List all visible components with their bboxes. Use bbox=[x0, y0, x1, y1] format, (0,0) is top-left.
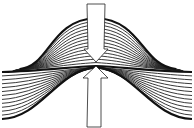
down-arrow-icon bbox=[84, 4, 108, 62]
fold-diagram bbox=[0, 0, 194, 128]
up-arrow-icon bbox=[83, 66, 108, 127]
fold-svg bbox=[0, 0, 194, 128]
